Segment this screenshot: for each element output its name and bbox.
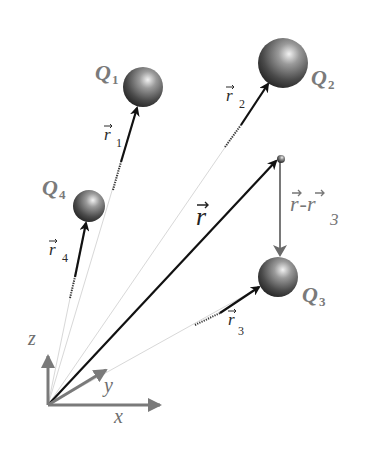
field-point <box>277 155 285 163</box>
label-z-axis: z <box>27 327 36 349</box>
charge-q3-sphere <box>258 257 298 297</box>
r1-tail <box>113 162 121 190</box>
source-vectors <box>75 84 268 313</box>
label-q4: Q4 <box>42 175 66 202</box>
svg-text:r: r <box>196 202 207 231</box>
vector-r2 <box>241 84 268 125</box>
label-r1: r 1 <box>104 124 122 150</box>
label-q2: Q2 <box>311 65 334 92</box>
vector-r1 <box>121 108 137 162</box>
label-q1: Q1 <box>95 60 118 87</box>
svg-text:1: 1 <box>116 136 122 150</box>
label-x-axis: x <box>113 405 123 427</box>
vector-diagram: Q1 Q2 Q3 Q4 r 1 r 2 r 3 r 4 r r-r 3 z y … <box>0 0 369 454</box>
charge-q4-sphere <box>73 190 105 222</box>
label-r: r <box>196 202 208 231</box>
r3-tail <box>195 313 220 325</box>
label-r4: r 4 <box>49 239 68 265</box>
r4-tail <box>70 277 75 298</box>
label-r2: r 2 <box>226 85 245 111</box>
label-y-axis: y <box>102 374 113 397</box>
vector-arrow-accent-icon <box>315 190 324 196</box>
vector-r3 <box>220 287 259 313</box>
svg-text:4: 4 <box>62 251 68 265</box>
svg-text:r-r: r-r <box>290 191 316 216</box>
label-q3: Q3 <box>302 282 326 309</box>
label-r-minus-r3: r-r 3 <box>290 190 339 229</box>
svg-text:3: 3 <box>238 324 244 338</box>
charge-q2-sphere <box>258 38 308 88</box>
vector-r4 <box>75 223 86 277</box>
svg-text:3: 3 <box>329 210 339 229</box>
charge-q1-sphere <box>123 67 163 107</box>
label-r3: r 3 <box>228 309 244 338</box>
svg-text:2: 2 <box>239 97 245 111</box>
